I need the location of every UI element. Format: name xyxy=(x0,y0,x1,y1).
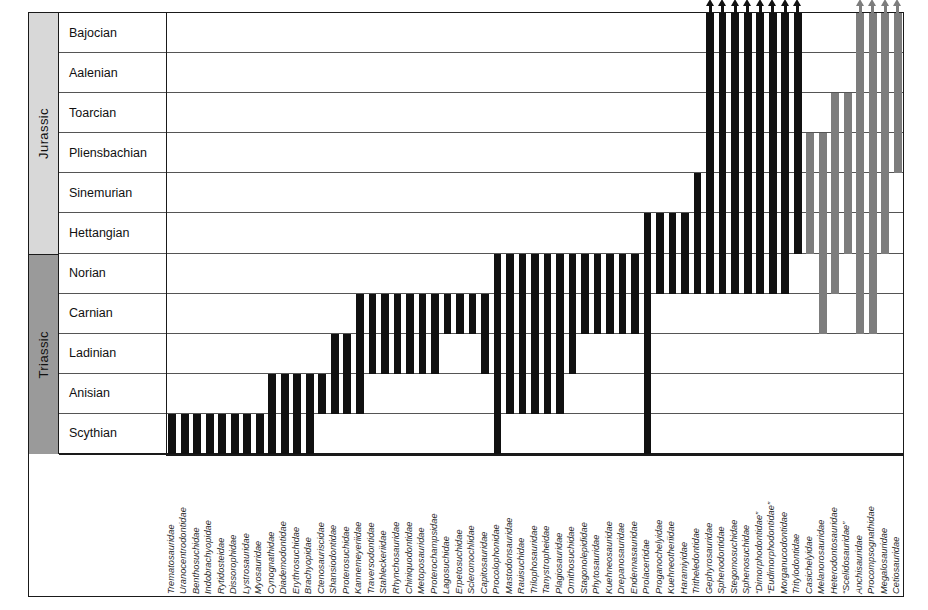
range-bar xyxy=(756,13,764,294)
range-bar xyxy=(619,254,627,334)
range-bar xyxy=(831,93,839,293)
range-bar xyxy=(631,254,639,334)
taxon-label: Proterochampsidae xyxy=(429,513,439,594)
range-bar xyxy=(544,254,552,414)
period-label: Triassic xyxy=(36,331,51,379)
stage-label: Aalenian xyxy=(69,66,118,80)
range-bar xyxy=(318,374,326,414)
range-bar xyxy=(731,13,739,294)
taxon-label: Procompsognathidae xyxy=(866,506,876,594)
range-bar xyxy=(231,414,239,454)
taxon-label: Sphenosuchidae xyxy=(741,525,751,594)
taxon-label: “Scelidosauridae” xyxy=(841,522,851,594)
range-bar xyxy=(168,414,176,454)
range-bar xyxy=(369,294,377,374)
range-arrow-head xyxy=(881,0,889,6)
range-bar xyxy=(494,254,502,454)
period-label: Jurassic xyxy=(36,108,51,159)
range-bar xyxy=(469,294,477,334)
range-bar xyxy=(256,414,264,454)
taxon-label: Cetiosauridae xyxy=(891,537,901,594)
taxon-label: Anchisauridae xyxy=(854,535,864,594)
range-bar xyxy=(356,294,364,414)
range-bar xyxy=(419,294,427,374)
taxon-label: Indobrachyopidae xyxy=(203,520,213,594)
stage-label: Norian xyxy=(69,266,106,280)
taxon-label: Stahleckeriidae xyxy=(378,530,388,594)
taxon-label: Ctenosauriscidae xyxy=(316,522,326,594)
taxon-label: Metoposauridae xyxy=(416,527,426,594)
taxon-label: Lystrosauridae xyxy=(241,533,251,594)
stratigraphic-range-chart: JurassicTriassic BajocianAalenianToarcia… xyxy=(0,0,928,610)
taxon-label: Megalosauridae xyxy=(879,528,889,594)
stage-label: Anisian xyxy=(69,386,110,400)
range-bar xyxy=(656,213,664,293)
taxon-label: Rhynchosauridae xyxy=(391,522,401,594)
range-bar xyxy=(531,254,539,414)
taxon-label: Rytidosteidae xyxy=(216,538,226,594)
taxon-label: “Dimorphodontidae” xyxy=(754,512,764,594)
taxon-label: Tanystropheidae xyxy=(541,526,551,594)
range-bar xyxy=(381,294,389,374)
range-arrow-head xyxy=(718,0,726,6)
range-arrow-head xyxy=(731,0,739,6)
taxon-label: Ornithosuchidae xyxy=(566,526,576,594)
range-bar xyxy=(844,93,852,253)
taxon-label: Uranocentrodontidae xyxy=(178,507,188,594)
taxon-label: Cynognathidae xyxy=(266,531,276,594)
range-bar xyxy=(706,13,714,294)
range-arrow-head xyxy=(793,0,801,6)
taxon-label-strip: TrematosauridaeUranocentrodontidaeBentho… xyxy=(166,455,904,598)
range-bar xyxy=(781,13,789,294)
range-bar xyxy=(819,133,827,333)
range-bar xyxy=(481,294,489,374)
taxon-label: Myosauridae xyxy=(253,541,263,594)
taxon-label: Haramiyidae xyxy=(679,542,689,594)
range-bar xyxy=(431,294,439,374)
range-bar xyxy=(268,374,276,454)
taxon-label: Prolacertidae xyxy=(641,539,651,594)
range-bar xyxy=(569,254,577,374)
range-bar xyxy=(856,13,864,334)
taxon-label: Capitosauridae xyxy=(479,531,489,594)
range-bar xyxy=(193,414,201,454)
taxon-label: Tritylodontidae xyxy=(791,534,801,594)
taxon-label: Kannemeyeriidae xyxy=(353,522,363,594)
taxon-label: Chiniquodontidae xyxy=(404,522,414,594)
stage-label: Scythian xyxy=(69,426,117,440)
range-bar xyxy=(681,213,689,293)
range-bar xyxy=(806,133,814,253)
range-bar xyxy=(293,374,301,454)
range-bar xyxy=(556,254,564,414)
taxon-label: Trilophosauridae xyxy=(529,525,539,594)
taxon-label: Shansiodontidae xyxy=(328,525,338,594)
range-arrow-head xyxy=(781,0,789,6)
range-arrow-head xyxy=(856,0,864,6)
taxon-label: Erpetosuchidae xyxy=(454,529,464,594)
range-bar xyxy=(456,294,464,334)
chart-frame: JurassicTriassic BajocianAalenianToarcia… xyxy=(28,12,904,597)
range-arrow-head xyxy=(868,0,876,6)
range-bar xyxy=(444,294,452,334)
taxon-label: Proterosuchidae xyxy=(341,526,351,594)
stage-label: Bajocian xyxy=(69,26,117,40)
taxon-label: Kuehneosauridae xyxy=(604,521,614,594)
period-block-jurassic: Jurassic xyxy=(29,13,59,254)
range-bar xyxy=(869,13,877,334)
taxon-label: Kuehneotheriidae xyxy=(666,521,676,594)
range-arrow-head xyxy=(768,0,776,6)
period-block-triassic: Triassic xyxy=(29,254,59,454)
stage-label: Pliensbachian xyxy=(69,146,147,160)
range-bar xyxy=(881,13,889,254)
taxon-label: Morganucodontidae xyxy=(779,512,789,594)
taxon-label: Heterodontosauridae xyxy=(829,507,839,594)
taxon-label: Sphenodontidae xyxy=(716,526,726,594)
taxon-label: Diademodontidae xyxy=(278,521,288,594)
taxon-label: Procolophonidae xyxy=(491,524,501,594)
taxon-label: Gephyrosauridae xyxy=(704,523,714,594)
range-bar xyxy=(394,294,402,374)
taxon-label: Brachyopidae xyxy=(303,537,313,594)
stage-label: Sinemurian xyxy=(69,186,132,200)
taxon-label: Phytosauridae xyxy=(591,535,601,594)
range-bar xyxy=(794,13,802,254)
